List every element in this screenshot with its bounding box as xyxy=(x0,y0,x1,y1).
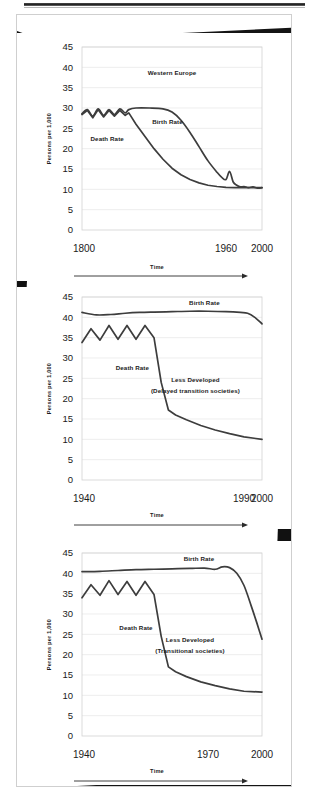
chart-annotation: Western Europe xyxy=(148,69,197,76)
y-tick-label: 20 xyxy=(62,143,73,154)
chart-annotation: Death Rate xyxy=(116,364,150,371)
y-tick-label: 15 xyxy=(62,413,73,424)
y-tick-label: 5 xyxy=(68,710,73,721)
x-tick-label: 1940 xyxy=(73,493,96,504)
x-tick-label: 1960 xyxy=(215,243,238,254)
scan-top-rule xyxy=(24,3,305,6)
x-tick-label: 2000 xyxy=(251,243,274,254)
y-tick-label: 5 xyxy=(68,454,73,465)
y-tick-label: 0 xyxy=(68,730,73,741)
chart-svg-2: 051015202530354045194019902000Persons pe… xyxy=(17,287,291,529)
y-tick-label: 10 xyxy=(62,184,73,195)
chart-less-developed-delayed: 051015202530354045194019902000Persons pe… xyxy=(17,287,291,529)
chart-svg-1: 051015202530354045180019602000Persons pe… xyxy=(17,33,291,281)
y-tick-label: 20 xyxy=(62,393,73,404)
birth-rate-curve xyxy=(82,567,262,640)
y-axis-title: Persons per 1,000 xyxy=(46,363,52,414)
chart-annotation: (Transitional societies) xyxy=(155,647,224,654)
y-tick-label: 25 xyxy=(62,373,73,384)
y-tick-label: 20 xyxy=(62,649,73,660)
chart-annotation: (Delayed transition societies) xyxy=(151,387,240,394)
time-arrow-icon xyxy=(242,522,248,527)
plot-area-3: 051015202530354045194019702000Persons pe… xyxy=(17,541,291,785)
chart-annotation: Death Rate xyxy=(119,624,153,631)
y-tick-label: 40 xyxy=(62,312,73,323)
x-axis-title: Time xyxy=(150,264,164,270)
y-tick-label: 10 xyxy=(62,434,73,445)
x-axis-title: Time xyxy=(150,768,164,774)
chart-annotation: Birth Rate xyxy=(189,299,220,306)
plot-area-2: 051015202530354045194019902000Persons pe… xyxy=(17,287,291,529)
chart-western-europe: 051015202530354045180019602000Persons pe… xyxy=(17,33,291,281)
y-tick-label: 35 xyxy=(62,82,73,93)
x-tick-label: 1800 xyxy=(73,243,96,254)
y-tick-label: 10 xyxy=(62,690,73,701)
chart-annotation: Birth Rate xyxy=(152,118,183,125)
x-axis-title: Time xyxy=(150,512,164,518)
y-tick-label: 25 xyxy=(62,629,73,640)
chart-annotation: Death Rate xyxy=(91,135,125,142)
scanned-page: 051015202530354045180019602000Persons pe… xyxy=(16,14,292,787)
x-tick-label: 2000 xyxy=(251,493,274,504)
y-tick-label: 45 xyxy=(62,41,73,52)
y-tick-label: 0 xyxy=(68,224,73,235)
y-tick-label: 45 xyxy=(62,547,73,558)
plot-area-1: 051015202530354045180019602000Persons pe… xyxy=(17,33,291,281)
y-tick-label: 25 xyxy=(62,123,73,134)
scan-top-rule-secondary xyxy=(24,7,305,8)
time-arrow-icon xyxy=(242,273,248,278)
y-tick-label: 40 xyxy=(62,62,73,73)
y-axis-title: Persons per 1,000 xyxy=(46,619,52,670)
y-tick-label: 15 xyxy=(62,163,73,174)
y-tick-label: 15 xyxy=(62,669,73,680)
x-tick-label: 2000 xyxy=(251,749,274,760)
y-tick-label: 30 xyxy=(62,102,73,113)
x-tick-label: 1940 xyxy=(73,749,96,760)
chart-less-developed-transitional: 051015202530354045194019702000Persons pe… xyxy=(17,541,291,785)
chart-svg-3: 051015202530354045194019702000Persons pe… xyxy=(17,541,291,785)
y-tick-label: 30 xyxy=(62,352,73,363)
y-tick-label: 45 xyxy=(62,291,73,302)
y-tick-label: 30 xyxy=(62,608,73,619)
y-tick-label: 40 xyxy=(62,568,73,579)
y-tick-label: 35 xyxy=(62,332,73,343)
y-tick-label: 5 xyxy=(68,204,73,215)
y-tick-label: 0 xyxy=(68,474,73,485)
chart-annotation: Birth Rate xyxy=(184,555,215,562)
y-tick-label: 35 xyxy=(62,588,73,599)
y-axis-title: Persons per 1,000 xyxy=(46,113,52,164)
x-tick-label: 1970 xyxy=(197,749,220,760)
chart-annotation: Less Developed xyxy=(166,636,215,643)
time-arrow-icon xyxy=(242,778,248,783)
chart-annotation: Less Developed xyxy=(171,376,220,383)
